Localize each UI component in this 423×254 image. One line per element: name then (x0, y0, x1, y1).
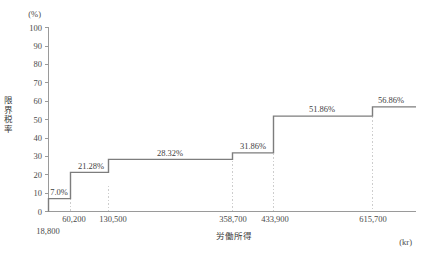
x-tick-label-18800: 18,800 (36, 226, 59, 236)
marginal-tax-rate-chart: 100 90 80 70 60 50 40 30 20 10 0 (%) 18,… (0, 0, 423, 254)
y-tick-label-0: 0 (38, 207, 42, 217)
value-label-56-86: 56.86% (378, 95, 404, 105)
y-tick-label-50: 50 (34, 115, 43, 125)
value-label-28-32: 28.32% (157, 148, 183, 158)
x-tick-labels: 18,800 60,200 130,500 358,700 433,900 61… (36, 214, 387, 236)
y-tick-label-100: 100 (29, 23, 42, 33)
y-tick-label-80: 80 (34, 59, 43, 69)
x-axis-unit: (kr) (399, 237, 412, 247)
value-label-7-0: 7.0% (50, 187, 68, 197)
y-tick-label-10: 10 (34, 188, 43, 198)
y-axis-title: 限 界 税 率 (2, 96, 14, 134)
y-tick-label-20: 20 (34, 170, 43, 180)
step-value-labels: 7.0% 21.28% 28.32% 31.86% 51.86% 56.86% (50, 95, 404, 197)
value-label-51-86: 51.86% (309, 104, 335, 114)
x-tick-label-60200: 60,200 (62, 214, 85, 224)
x-tick-label-433900: 433,900 (261, 214, 289, 224)
y-tick-label-90: 90 (34, 41, 43, 51)
y-tick-label-30: 30 (34, 151, 43, 161)
value-label-21-28: 21.28% (78, 161, 104, 171)
y-axis-title-char-3: 率 (2, 125, 14, 135)
x-tick-label-358700: 358,700 (219, 214, 247, 224)
y-tick-label-60: 60 (34, 96, 43, 106)
chart-canvas: 100 90 80 70 60 50 40 30 20 10 0 (%) 18,… (0, 0, 423, 254)
x-axis-title: 労働所得 (216, 231, 252, 241)
x-tick-label-130500: 130,500 (99, 214, 127, 224)
y-tick-labels: 100 90 80 70 60 50 40 30 20 10 0 (29, 23, 42, 217)
y-tick-label-40: 40 (34, 133, 43, 143)
y-axis-unit: (%) (28, 9, 41, 19)
y-axis (45, 28, 49, 212)
value-label-31-86: 31.86% (240, 141, 266, 151)
x-tick-label-615700: 615,700 (359, 214, 387, 224)
y-tick-label-70: 70 (34, 78, 43, 88)
